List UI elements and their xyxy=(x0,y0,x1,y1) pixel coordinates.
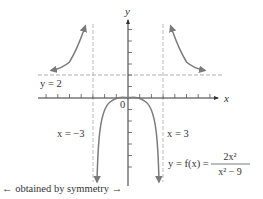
x-axis-label: x xyxy=(223,92,229,104)
origin-label: 0 xyxy=(120,99,125,110)
function-numerator: 2x² xyxy=(224,151,237,162)
function-denominator: x² − 9 xyxy=(218,166,242,177)
function-formula: y = f(x) = 2x² x² − 9 xyxy=(168,151,250,177)
left-branch-curve xyxy=(51,26,85,71)
vertical-asymptote-right-label: x = 3 xyxy=(167,128,189,139)
symmetry-caption: ← obtained by symmetry → xyxy=(2,183,122,194)
y-axis-label: y xyxy=(124,5,130,17)
right-branch-curve xyxy=(171,26,205,71)
function-lhs: y = f(x) = xyxy=(168,158,209,170)
function-graph: y x 0 y = 2 x = −3 x = 3 y = f(x) = 2x² … xyxy=(0,0,263,199)
vertical-asymptote-left-label: x = −3 xyxy=(57,128,85,139)
horizontal-asymptote-label: y = 2 xyxy=(40,78,62,89)
